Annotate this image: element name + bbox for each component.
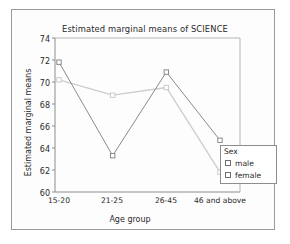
legend-marker-male-icon (225, 160, 231, 166)
data-point-female-0 (57, 78, 61, 82)
legend-label-female: female (235, 171, 261, 180)
legend-title: Sex (224, 147, 274, 157)
legend: Sex male female (220, 145, 277, 184)
series-male (57, 60, 222, 158)
plot-axes (52, 38, 240, 192)
series-female (57, 78, 222, 175)
data-point-male-3 (218, 138, 222, 142)
legend-marker-female-icon (225, 172, 231, 178)
legend-label-male: male (235, 159, 254, 168)
line-chart-plot (0, 0, 290, 244)
legend-item-male[interactable]: male (224, 157, 274, 169)
legend-item-female[interactable]: female (224, 169, 274, 181)
data-point-male-2 (164, 70, 168, 74)
data-point-male-0 (57, 60, 61, 64)
data-point-female-2 (164, 85, 168, 89)
data-point-male-1 (110, 154, 114, 158)
data-point-female-1 (110, 93, 114, 97)
